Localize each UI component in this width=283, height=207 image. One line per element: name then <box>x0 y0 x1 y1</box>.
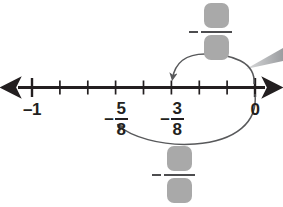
fraction-denominator: 8 <box>172 121 183 138</box>
minus-sign-icon <box>189 31 198 33</box>
fraction-sign: – <box>160 110 169 127</box>
fraction-stack: 3 8 <box>171 100 184 138</box>
top-answer-blank[interactable] <box>189 3 232 60</box>
answer-fraction-stack <box>201 3 232 60</box>
minus-sign-icon <box>152 174 161 176</box>
callout-pointer <box>246 48 283 69</box>
answer-fraction-stack <box>164 146 195 203</box>
numerator-input-box[interactable] <box>167 146 192 171</box>
fraction-stack: 5 8 <box>115 100 128 138</box>
fraction-bar <box>164 174 195 176</box>
figure-canvas: –1 – 5 8 – 3 8 0 <box>0 0 283 207</box>
tick-label-minus-three-eighths: – 3 8 <box>154 100 190 138</box>
fraction-denominator: 8 <box>116 121 127 138</box>
fraction-bar <box>201 31 232 33</box>
denominator-input-box[interactable] <box>167 178 192 203</box>
tick-label-minus-five-eighths: – 5 8 <box>98 100 134 138</box>
numerator-input-box[interactable] <box>204 3 229 28</box>
denominator-input-box[interactable] <box>204 35 229 60</box>
fraction-numerator: 3 <box>172 100 183 117</box>
tick-label-zero: 0 <box>239 101 271 118</box>
bottom-answer-blank[interactable] <box>152 146 195 203</box>
tick-label-minus-one: –1 <box>14 101 50 118</box>
fraction-sign: – <box>104 110 113 127</box>
fraction-numerator: 5 <box>116 100 127 117</box>
